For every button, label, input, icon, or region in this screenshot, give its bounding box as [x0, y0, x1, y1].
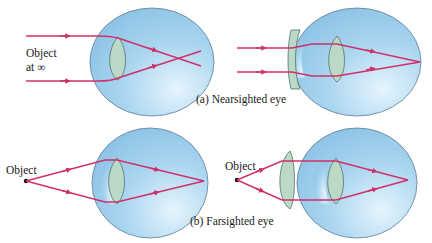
object-label-farsighted-uncorrected: Object — [6, 164, 37, 177]
object-at-infinity-label-line1: Object — [26, 47, 57, 60]
farsighted-uncorrected-eye — [24, 128, 208, 238]
eye-correction-diagram — [0, 0, 432, 243]
object-at-infinity-label-line2: at ∞ — [26, 61, 45, 74]
caption-nearsighted: (a) Nearsighted eye — [196, 93, 286, 106]
object-label-farsighted-corrected: Object — [225, 160, 256, 173]
nearsighted-uncorrected-eye — [26, 8, 214, 116]
caption-farsighted: (b) Farsighted eye — [190, 215, 274, 228]
